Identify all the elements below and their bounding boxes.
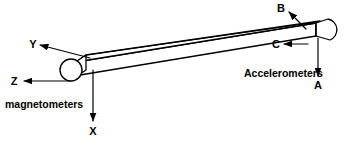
magnetometers-label: magnetometers [5, 98, 83, 110]
boom-left-endcap [60, 55, 86, 81]
accelerometer-b-label: B [277, 2, 285, 14]
figure-canvas: Y Z X magnetometers Accelerometers B C A [0, 0, 352, 142]
y-axis-label: Y [29, 38, 37, 50]
accelerometer-a-label: A [314, 79, 322, 91]
magnetometer-end-circle [60, 59, 82, 81]
accelerometers-label: Accelerometers [244, 67, 323, 79]
endcap-dome [316, 19, 337, 40]
boom-diagram: Y Z X magnetometers Accelerometers B C A [0, 0, 352, 142]
y-axis-arrow [40, 45, 90, 58]
accelerometer-c-label: C [272, 38, 280, 50]
z-axis-label: Z [11, 75, 18, 87]
boom-right-endcap [316, 19, 337, 40]
x-axis-label: X [89, 125, 97, 137]
